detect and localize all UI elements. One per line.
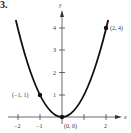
x-axis-label: x [123, 114, 127, 120]
point-label-2-4: (2, 4) [110, 25, 123, 32]
x-tick-label-neg1: −1 [36, 123, 42, 129]
point-label-neg1-1: (−1, 1) [12, 92, 28, 99]
x-tick-label-neg2: −2 [14, 123, 20, 129]
y-tick-label-1: 1 [53, 92, 56, 98]
point-label-origin: (0, 0) [64, 123, 77, 130]
y-tick-label-3: 3 [53, 47, 56, 53]
y-tick-label-4: 4 [53, 25, 56, 31]
point-2-4 [104, 26, 108, 30]
x-axis-arrow-icon [115, 115, 122, 119]
parabola-figure: 3. x y −2 −1 2 [0, 0, 131, 133]
point-neg1-1 [38, 93, 42, 97]
y-axis-label: y [58, 2, 62, 8]
point-origin [60, 115, 64, 119]
parabola-chart: x y −2 −1 2 1 2 3 4 (−1, 1) (0, 0) (2, 4… [0, 0, 131, 133]
x-tick-label-2: 2 [104, 123, 107, 129]
y-axis-arrow-icon [60, 10, 64, 17]
y-tick-label-2: 2 [53, 70, 56, 76]
